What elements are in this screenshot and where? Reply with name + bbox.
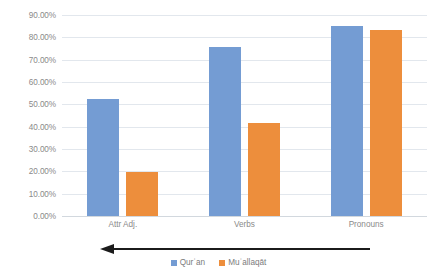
bar-attr-adj-mu-allaq-t [126,172,158,216]
bar-attr-adj-qur-an [87,99,119,216]
y-axis-tick-label: 0.00% [0,212,56,221]
y-axis-tick-label: 10.00% [0,189,56,198]
legend: QurʾanMuʿallaqāt [0,258,437,267]
y-axis-tick-label: 20.00% [0,167,56,176]
y-axis-tick-label: 80.00% [0,33,56,42]
x-axis-tick-label: Attr Adj. [108,220,137,229]
x-axis-tick-label: Pronouns [349,220,384,229]
legend-label: Muʿallaqāt [228,258,266,267]
bar-verbs-mu-allaq-t [248,123,280,216]
x-axis-tick-label: Verbs [234,220,255,229]
legend-swatch-icon [171,260,177,266]
plot-area [62,15,427,216]
legend-label: Qurʾan [180,258,205,267]
legend-swatch-icon [219,260,225,266]
gridline [62,216,427,217]
bar-pronouns-mu-allaq-t [370,30,402,216]
bar-verbs-qur-an [209,47,241,216]
y-axis-tick-label: 60.00% [0,78,56,87]
legend-item-qur-an[interactable]: Qurʾan [171,258,205,267]
legend-item-mu-allaq-t[interactable]: Muʿallaqāt [219,258,266,267]
y-axis-tick-label: 70.00% [0,55,56,64]
left-arrow-icon [100,240,370,258]
bar-pronouns-qur-an [331,26,363,216]
y-axis-tick-label: 90.00% [0,11,56,20]
y-axis-tick-label: 30.00% [0,145,56,154]
y-axis-tick-label: 40.00% [0,122,56,131]
trend-arrow-annotation [100,240,370,258]
bar-chart: 0.00%10.00%20.00%30.00%40.00%50.00%60.00… [0,0,437,280]
bars-layer [62,15,427,216]
y-axis-tick-label: 50.00% [0,100,56,109]
y-axis: 0.00%10.00%20.00%30.00%40.00%50.00%60.00… [0,0,56,280]
x-axis: Attr Adj.VerbsPronouns [62,220,427,236]
